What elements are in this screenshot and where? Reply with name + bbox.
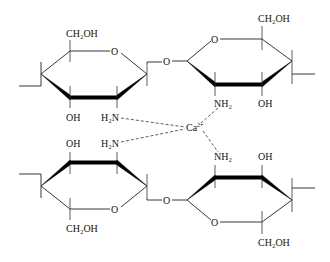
- ring-oxygen: O: [111, 204, 118, 215]
- ch2oh-label: CH₂OH: [258, 13, 290, 24]
- ch2oh-label: CH₂OH: [258, 237, 290, 248]
- ring-oxygen: O: [211, 217, 218, 228]
- ch2oh-label: CH₂OH: [66, 28, 98, 39]
- coordination-bond: [121, 118, 185, 127]
- coordination-bond: [201, 108, 218, 123]
- hydroxyl-label: OH: [258, 98, 272, 109]
- chitosan-calcium-diagram: CH₂OH O OH H₂N O O CH₂OH NH₂ OH: [0, 0, 330, 262]
- hydroxyl-label: OH: [66, 112, 80, 123]
- calcium-ion: Ca2+: [186, 122, 204, 133]
- ring-bottom-right: NH₂ OH O CH₂OH: [187, 151, 315, 248]
- amine-label: H₂N: [101, 112, 119, 123]
- coordination-bond: [121, 129, 185, 142]
- ring-top-left: CH₂OH O OH H₂N: [19, 28, 162, 123]
- amine-label: NH₂: [214, 151, 232, 162]
- ring-oxygen: O: [211, 34, 218, 45]
- coordination-bond: [203, 131, 218, 152]
- ring-bottom-left: OH H₂N O CH₂OH: [19, 138, 162, 234]
- amine-label: H₂N: [101, 138, 119, 149]
- chain-bracket-left: [19, 62, 41, 86]
- glycosidic-oxygen-top: O: [163, 56, 170, 67]
- chain-bracket-left: [19, 174, 41, 198]
- hydroxyl-label: OH: [258, 151, 272, 162]
- amine-label: NH₂: [214, 98, 232, 109]
- ring-top-right: O CH₂OH NH₂ OH: [187, 13, 315, 109]
- calcium-coordination: Ca2+: [121, 108, 218, 152]
- hydroxyl-label: OH: [66, 138, 80, 149]
- glycosidic-oxygen-bottom: O: [163, 195, 170, 206]
- ring-oxygen: O: [111, 46, 118, 57]
- ch2oh-label: CH₂OH: [66, 223, 98, 234]
